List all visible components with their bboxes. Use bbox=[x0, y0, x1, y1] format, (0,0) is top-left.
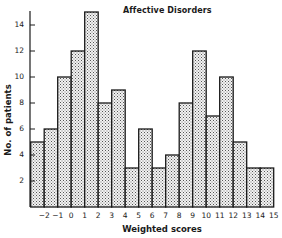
histogram-bar bbox=[112, 90, 126, 207]
x-tick-label: 13 bbox=[242, 211, 252, 220]
y-tick-label: 8 bbox=[10, 98, 24, 107]
histogram-bar bbox=[179, 103, 193, 207]
histogram-bar bbox=[152, 168, 166, 207]
x-tick-label: −2 bbox=[39, 211, 50, 220]
histogram-bar bbox=[98, 103, 112, 207]
histogram-bar bbox=[125, 168, 139, 207]
histogram-bar bbox=[44, 129, 58, 207]
x-tick-label: 0 bbox=[69, 211, 74, 220]
histogram-bar bbox=[193, 51, 207, 207]
x-tick-label: −1 bbox=[52, 211, 63, 220]
histogram-bar bbox=[31, 142, 45, 207]
histogram-bar bbox=[166, 155, 180, 207]
y-tick-label: 4 bbox=[10, 150, 24, 159]
y-tick-label: 6 bbox=[10, 124, 24, 133]
histogram-bar bbox=[206, 116, 220, 207]
x-tick-label: 8 bbox=[177, 211, 182, 220]
histogram-chart: Affective Disorders No. of patients Weig… bbox=[0, 0, 282, 238]
x-tick-label: 4 bbox=[123, 211, 128, 220]
x-tick-label: 2 bbox=[96, 211, 101, 220]
histogram-bar bbox=[85, 12, 99, 207]
x-tick-label: 3 bbox=[109, 211, 114, 220]
histogram-bar bbox=[139, 129, 153, 207]
plot-area bbox=[0, 0, 282, 238]
bars-group bbox=[31, 12, 274, 207]
x-tick-label: 15 bbox=[269, 211, 279, 220]
x-tick-label: 7 bbox=[163, 211, 168, 220]
histogram-bar bbox=[220, 77, 234, 207]
histogram-bar bbox=[247, 168, 261, 207]
histogram-bar bbox=[233, 142, 247, 207]
x-tick-label: 11 bbox=[215, 211, 225, 220]
y-tick-label: 12 bbox=[10, 46, 24, 55]
x-tick-label: 14 bbox=[255, 211, 265, 220]
x-tick-label: 10 bbox=[201, 211, 211, 220]
x-tick-label: 1 bbox=[82, 211, 87, 220]
y-tick-label: 14 bbox=[10, 20, 24, 29]
x-tick-label: 5 bbox=[136, 211, 141, 220]
histogram-bar bbox=[260, 168, 274, 207]
x-tick-label: 6 bbox=[150, 211, 155, 220]
x-tick-label: 12 bbox=[228, 211, 238, 220]
y-tick-label: 2 bbox=[10, 176, 24, 185]
histogram-bar bbox=[58, 77, 71, 207]
histogram-bar bbox=[71, 51, 85, 207]
x-tick-label: 9 bbox=[190, 211, 195, 220]
y-tick-label: 10 bbox=[10, 72, 24, 81]
